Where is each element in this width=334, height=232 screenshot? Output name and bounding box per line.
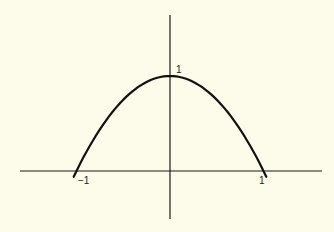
x-tick-label-neg1: −1: [78, 175, 90, 186]
y-tick-label-1: 1: [176, 64, 182, 75]
parabola-plot: 1 −1 1: [0, 0, 334, 232]
x-tick-label-1: 1: [259, 175, 265, 186]
